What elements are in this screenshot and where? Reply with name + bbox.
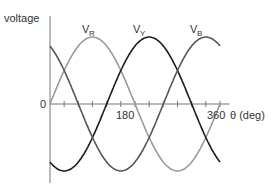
- legend-vr: V R: [82, 23, 95, 38]
- tick-label-360: 360: [207, 109, 225, 121]
- vb-subscript: B: [197, 29, 202, 38]
- three-phase-chart: voltage 0 180 360 θ (deg) V R V Y V B: [0, 0, 273, 190]
- tick-label-180: 180: [116, 109, 134, 121]
- legend-vb: V B: [190, 23, 202, 38]
- x-axis-label: θ (deg): [230, 109, 265, 121]
- origin-label: 0: [40, 98, 46, 110]
- y-axis-label: voltage: [4, 12, 39, 24]
- legend-vy: V Y: [133, 23, 146, 38]
- vy-subscript: Y: [140, 29, 146, 38]
- vr-subscript: R: [89, 29, 95, 38]
